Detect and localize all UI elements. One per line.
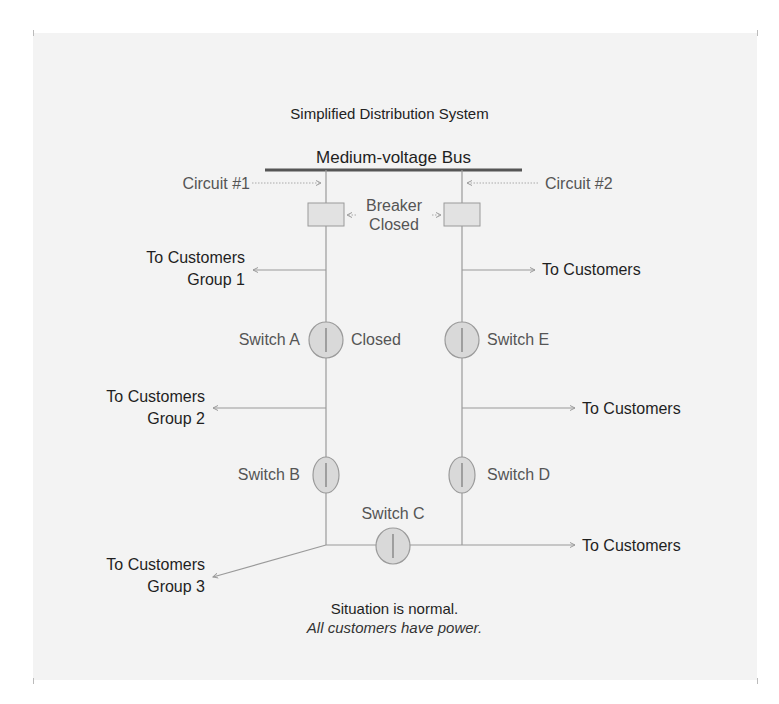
right-customers-3-label: To Customers xyxy=(582,538,681,554)
switch-b-label: Switch B xyxy=(200,467,300,483)
group-1-label-line2: Group 1 xyxy=(60,272,245,288)
switch-a xyxy=(309,322,343,358)
breaker-circuit-1 xyxy=(308,203,344,226)
switch-a-state: Closed xyxy=(351,332,401,348)
switch-d-label: Switch D xyxy=(487,467,550,483)
group-3-label-line2: Group 3 xyxy=(20,579,205,595)
circuit-1-label: Circuit #1 xyxy=(150,176,250,192)
diagram-title: Simplified Distribution System xyxy=(0,106,779,121)
group-1-label-line1: To Customers xyxy=(60,250,245,266)
status-detail: All customers have power. xyxy=(0,620,779,635)
bus-label: Medium-voltage Bus xyxy=(265,149,522,166)
breaker-label-line1: Breaker xyxy=(344,198,444,214)
breaker-circuit-2 xyxy=(444,203,480,226)
group-3-label-line1: To Customers xyxy=(20,557,205,573)
switch-d xyxy=(449,457,475,493)
group-2-label-line2: Group 2 xyxy=(20,411,205,427)
right-customers-1-label: To Customers xyxy=(542,262,641,278)
branch-group-3 xyxy=(213,545,326,577)
switch-e xyxy=(445,322,479,358)
right-customers-2-label: To Customers xyxy=(582,401,681,417)
switch-c xyxy=(376,528,410,564)
switch-e-label: Switch E xyxy=(487,332,549,348)
switch-c-label: Switch C xyxy=(343,506,443,522)
switch-a-label: Switch A xyxy=(200,332,300,348)
circuit-2-label: Circuit #2 xyxy=(545,176,613,192)
breaker-label-line2: Closed xyxy=(344,217,444,233)
status-headline: Situation is normal. xyxy=(0,601,779,616)
switch-b xyxy=(313,457,339,493)
group-2-label-line1: To Customers xyxy=(20,389,205,405)
